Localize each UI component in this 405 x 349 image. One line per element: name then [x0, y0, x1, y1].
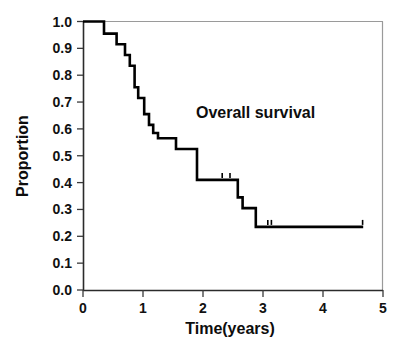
y-tick-label: 1.0 — [53, 14, 73, 30]
y-tick-label: 0.8 — [53, 67, 73, 83]
y-tick-label: 0.1 — [53, 255, 73, 271]
x-axis-tick-labels: 012345 — [79, 300, 387, 316]
y-axis-title: Proportion — [14, 115, 31, 197]
x-tick-label: 4 — [319, 300, 327, 316]
axis-lines — [83, 21, 383, 291]
y-tick-label: 0.3 — [53, 201, 73, 217]
km-curve-group — [83, 22, 363, 227]
x-tick-label: 2 — [199, 300, 207, 316]
y-tick-label: 0.0 — [53, 282, 73, 298]
x-tick-label: 3 — [259, 300, 267, 316]
y-tick-label: 0.7 — [53, 94, 73, 110]
y-tick-label: 0.5 — [53, 148, 73, 164]
overall-survival-curve — [83, 22, 363, 227]
x-tick-label: 5 — [379, 300, 387, 316]
y-tick-label: 0.4 — [53, 175, 73, 191]
overall-survival-annotation: Overall survival — [196, 104, 315, 121]
x-tick-label: 0 — [79, 300, 87, 316]
y-axis-ticks — [77, 22, 83, 291]
y-axis-tick-labels: 0.00.10.20.30.40.50.60.70.80.91.0 — [53, 14, 73, 299]
y-tick-label: 0.9 — [53, 40, 73, 56]
x-axis-title: Time(years) — [185, 320, 275, 337]
x-tick-label: 1 — [139, 300, 147, 316]
plot-frame — [83, 22, 383, 291]
chart-canvas: 0.00.10.20.30.40.50.60.70.80.91.0 012345… — [0, 0, 405, 349]
y-tick-label: 0.6 — [53, 121, 73, 137]
survival-chart: 0.00.10.20.30.40.50.60.70.80.91.0 012345… — [0, 0, 405, 349]
y-tick-label: 0.2 — [53, 228, 73, 244]
